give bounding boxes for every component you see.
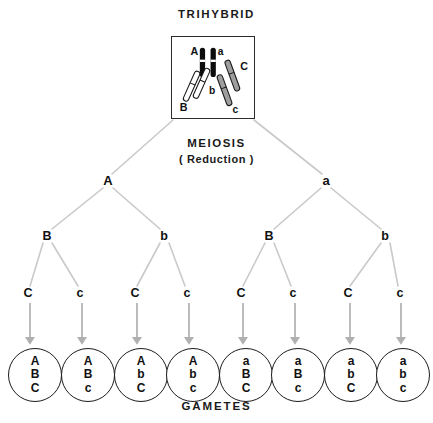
tree-node-tier1-0: A bbox=[102, 175, 113, 187]
gamete-allele: b bbox=[347, 368, 354, 382]
gamete-circle: A B c bbox=[61, 348, 115, 402]
gamete-allele: C bbox=[31, 382, 40, 396]
tree-node-tier3-7: c bbox=[396, 287, 405, 299]
tree-node-tier2-3: b bbox=[380, 230, 390, 242]
tree-node-tier3-6: C bbox=[342, 287, 353, 299]
tree-node-tier3-4: C bbox=[235, 287, 246, 299]
tree-node-tier3-1: c bbox=[76, 287, 85, 299]
gamete-circle: A b c bbox=[166, 348, 220, 402]
tree-node-tier2-0: B bbox=[41, 230, 52, 242]
gamete-allele: A bbox=[189, 355, 198, 369]
gamete-allele: a bbox=[295, 355, 302, 369]
gamete-circle: A b C bbox=[114, 348, 168, 402]
gamete-allele: b bbox=[189, 368, 196, 382]
gamete-allele: B bbox=[294, 368, 303, 382]
gamete-circle: A B C bbox=[8, 348, 62, 402]
tree-node-tier1-1: a bbox=[321, 175, 330, 187]
gamete-circle: a b C bbox=[324, 348, 378, 402]
gamete-allele: B bbox=[242, 368, 251, 382]
gamete-allele: b bbox=[399, 368, 406, 382]
gamete-allele: a bbox=[348, 355, 355, 369]
gamete-allele: A bbox=[137, 355, 146, 369]
gamete-allele: c bbox=[400, 382, 407, 396]
connector-lines bbox=[30, 120, 398, 286]
gamete-allele: C bbox=[347, 382, 356, 396]
trihybrid-meiosis-diagram: TRIHYBRID bbox=[0, 0, 433, 423]
tree-node-tier3-2: C bbox=[129, 287, 140, 299]
footer-label: GAMETES bbox=[0, 400, 433, 412]
gamete-allele: c bbox=[85, 382, 92, 396]
gamete-allele: B bbox=[84, 368, 93, 382]
gamete-allele: c bbox=[295, 382, 302, 396]
gamete-allele: B bbox=[31, 368, 40, 382]
gamete-allele: a bbox=[400, 355, 407, 369]
tree-node-tier3-3: c bbox=[183, 287, 192, 299]
gamete-allele: A bbox=[31, 355, 40, 369]
gamete-circle: a B C bbox=[219, 348, 273, 402]
tree-node-tier2-1: b bbox=[159, 230, 169, 242]
gamete-arrows bbox=[30, 303, 401, 341]
gamete-allele: C bbox=[242, 382, 251, 396]
tree-node-tier3-5: c bbox=[289, 287, 298, 299]
gamete-allele: b bbox=[137, 368, 144, 382]
gamete-circle: a B c bbox=[271, 348, 325, 402]
gamete-allele: C bbox=[137, 382, 146, 396]
gamete-allele: a bbox=[243, 355, 250, 369]
gamete-allele: A bbox=[84, 355, 93, 369]
tree-node-tier2-2: B bbox=[263, 230, 274, 242]
gamete-allele: c bbox=[190, 382, 197, 396]
tree-node-tier3-0: C bbox=[22, 287, 33, 299]
gamete-circle: a b c bbox=[376, 348, 430, 402]
